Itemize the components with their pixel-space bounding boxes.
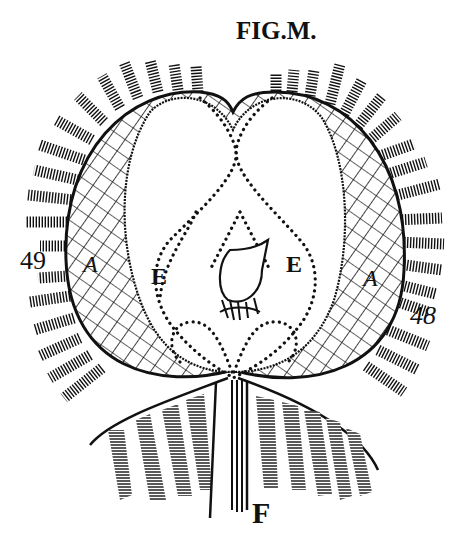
label-e-right: E	[286, 252, 302, 276]
label-f: F	[252, 498, 270, 528]
label-a-right: A	[363, 266, 378, 290]
outer-shell	[66, 92, 405, 378]
label-49: 49	[20, 248, 46, 274]
label-a-left: A	[83, 252, 98, 276]
label-48: 48	[410, 303, 436, 329]
engraving-illustration	[0, 0, 466, 540]
figure-title: FIG.M.	[236, 18, 317, 43]
lower-fringe	[90, 378, 378, 500]
engraving-figure: FIG.M. 49 48 A A E E F	[0, 0, 466, 540]
label-e-left: E	[151, 264, 167, 288]
stem	[210, 380, 247, 518]
